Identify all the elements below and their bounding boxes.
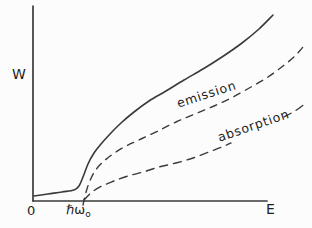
axes	[33, 6, 267, 201]
curves	[34, 15, 306, 205]
absorption-curve-seg1	[84, 143, 231, 200]
threshold-tick-label: ℏωo	[66, 202, 91, 219]
figure-emission-absorption-plot: W E 0 ℏωo emission absorption	[0, 0, 312, 228]
y-axis-label: W	[12, 66, 26, 82]
origin-tick-label: 0	[27, 203, 35, 218]
threshold-subscript: o	[85, 209, 91, 219]
threshold-hbar-omega: ℏω	[66, 202, 85, 217]
x-axis-label: E	[266, 201, 275, 217]
